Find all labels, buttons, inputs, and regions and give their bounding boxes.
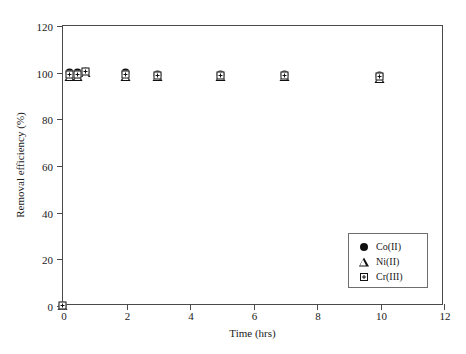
crossed-square-marker-icon [58,301,66,309]
x-axis-tick-label: 10 [376,311,387,322]
x-axis-tick-label: 8 [315,311,321,322]
legend-label: Cr(III) [376,272,403,282]
x-axis-tick: 4 [190,304,191,310]
data-point [374,71,385,82]
x-axis-tick: 10 [381,304,382,310]
y-axis-tick: 100 [57,73,63,74]
y-axis-tick: 120 [57,26,63,27]
y-axis-tick: 80 [57,119,63,120]
y-axis-tick-label: 80 [42,115,53,126]
x-axis-tick: 6 [254,304,255,310]
data-point [57,300,68,311]
data-point [279,70,290,81]
legend-item: Cr(III) [357,269,427,284]
crossed-square-marker-icon [280,71,288,79]
data-point [80,66,91,77]
x-axis-tick: 12 [444,304,445,310]
x-axis-tick: 8 [317,304,318,310]
y-axis-tick-label: 40 [42,208,53,219]
x-axis-tick: 2 [127,304,128,310]
y-axis-tick-label: 0 [48,302,54,313]
x-axis-tick-label: 12 [440,311,451,322]
legend-label: Ni(II) [376,257,399,267]
legend-item: Co(II) [357,239,427,254]
crossed-square-marker-icon [376,72,384,80]
crossed-square-marker-icon [153,71,161,79]
y-axis-tick-label: 60 [42,162,53,173]
y-axis-tick-label: 100 [37,68,54,79]
y-axis-tick: 40 [57,213,63,214]
x-axis-tick-label: 0 [61,311,67,322]
legend-label: Co(II) [376,242,401,252]
x-axis-tick-label: 2 [125,311,131,322]
legend-marker [357,240,370,253]
y-axis-tick-label: 120 [37,22,54,33]
data-point [152,70,163,81]
data-point [120,69,131,80]
legend-marker [357,270,370,283]
chart-legend: Co(II)Ni(II)Cr(III) [348,233,428,288]
filled-circle-marker-icon [360,243,368,251]
crossed-square-marker-icon [217,71,225,79]
y-axis-tick: 20 [57,259,63,260]
x-axis-tick-label: 4 [188,311,194,322]
y-axis-tick-label: 20 [42,255,53,266]
x-axis-tick-label: 6 [252,311,258,322]
x-axis-title: Time (hrs) [62,327,443,339]
crossed-square-marker-icon [82,68,90,76]
open-triangle-marker-icon [359,257,369,266]
legend-item: Ni(II) [357,254,427,269]
removal-efficiency-scatter-chart: 020406080100120024681012 Time (hrs) Remo… [0,0,466,354]
crossed-square-marker-icon [122,70,130,78]
crossed-square-marker-icon [360,273,368,281]
legend-marker [357,255,370,268]
y-axis-title: Removal efficiency (%) [14,25,32,305]
data-point [215,70,226,81]
y-axis-tick: 60 [57,166,63,167]
